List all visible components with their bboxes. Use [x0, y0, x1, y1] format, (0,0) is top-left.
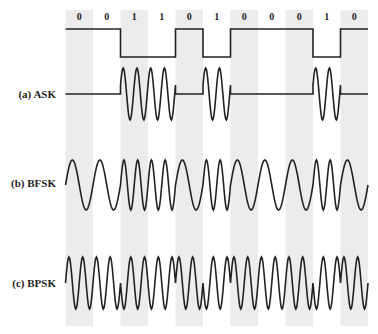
bfsk-waveform	[66, 160, 369, 210]
bit-label: 0	[66, 11, 94, 23]
bit-label: 0	[231, 11, 259, 23]
bpsk-waveform	[66, 257, 369, 309]
bfsk-label: (b) BFSK	[11, 177, 56, 189]
bit-label: 0	[341, 11, 369, 23]
bit-label: 1	[313, 11, 341, 23]
bit-label: 0	[93, 11, 121, 23]
bit-label: 0	[176, 11, 204, 23]
digital-signal-waveform	[66, 29, 369, 57]
bit-label: 0	[258, 11, 286, 23]
modulation-diagram	[0, 0, 378, 334]
bpsk-label: (c) BPSK	[12, 277, 56, 289]
ask-waveform	[66, 68, 369, 120]
bit-label: 1	[203, 11, 231, 23]
bit-label: 1	[148, 11, 176, 23]
bit-label: 0	[286, 11, 314, 23]
bit-label: 1	[121, 11, 149, 23]
ask-label: (a) ASK	[18, 88, 56, 100]
